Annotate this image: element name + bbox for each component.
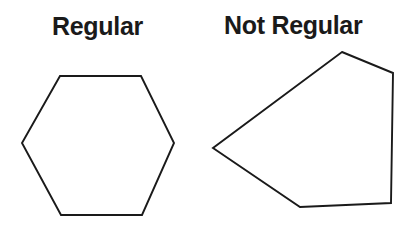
irregular-pentagon-outline xyxy=(213,52,393,207)
shapes-canvas xyxy=(0,0,416,233)
regular-hexagon-outline xyxy=(22,76,174,215)
polygon-comparison-figure: Regular Not Regular xyxy=(0,0,416,233)
